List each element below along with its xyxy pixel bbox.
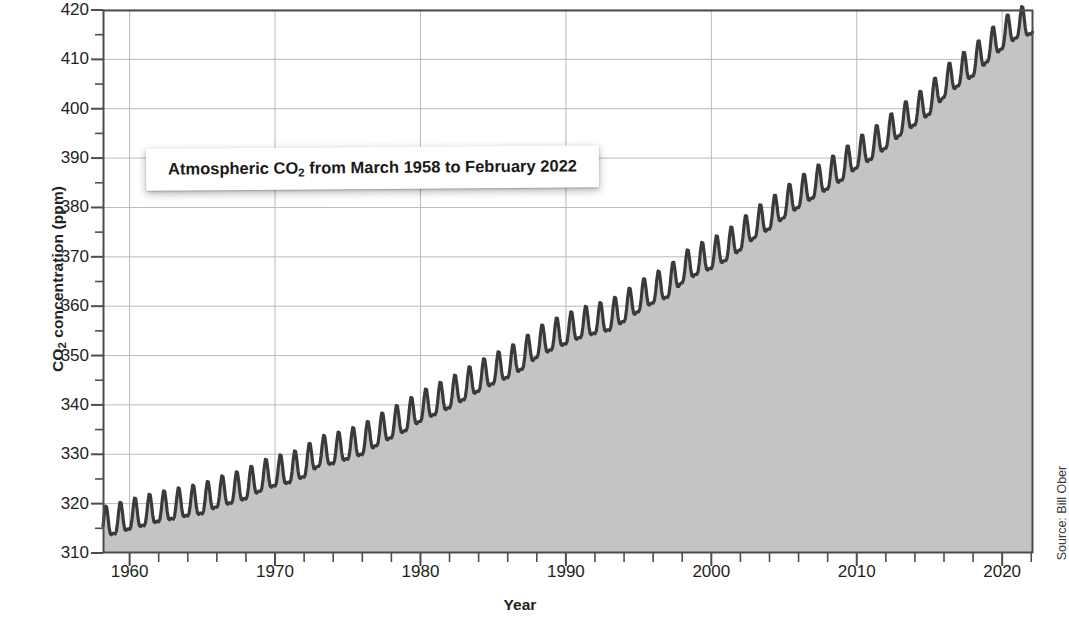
chart-canvas (103, 10, 1033, 553)
data-area-fill (103, 7, 1033, 553)
chart-title-suffix: from March 1958 to February 2022 (305, 156, 578, 176)
y-axis-tick-label: 350 (29, 347, 89, 364)
y-axis-tick-label: 330 (29, 445, 89, 462)
y-axis-tick-label: 360 (29, 297, 89, 314)
source-credit: Source: Bill Ober (1055, 433, 1069, 593)
y-axis-tick-label: 380 (29, 198, 89, 215)
y-axis-tick-label: 340 (29, 396, 89, 413)
y-axis-tick-label: 390 (29, 149, 89, 166)
chart-title-subscript: 2 (298, 167, 305, 179)
y-axis-title: CO2 concentration (ppm) (49, 119, 67, 439)
y-axis-tick-label: 410 (29, 50, 89, 67)
y-axis-tick-label: 310 (29, 544, 89, 561)
y-axis-tick-label: 400 (29, 100, 89, 117)
plot-area (103, 10, 1033, 553)
x-axis-title: Year (0, 596, 1040, 614)
y-axis-tick-label: 420 (29, 1, 89, 18)
chart-title-prefix: Atmospheric CO (168, 159, 298, 178)
y-axis-tick-label: 320 (29, 495, 89, 512)
y-axis-tick-label: 370 (29, 248, 89, 265)
chart-title-callout: Atmospheric CO2 from March 1958 to Febru… (146, 145, 599, 191)
